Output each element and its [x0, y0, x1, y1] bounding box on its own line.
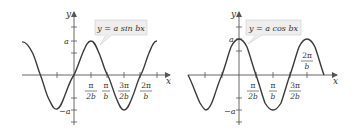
svg-text:π: π	[271, 81, 276, 90]
svg-text:b: b	[144, 92, 149, 101]
cosine-graph: y x a −a π 2b π b 3π 2b 2π b	[188, 9, 338, 125]
cosine-equation-callout: y = a cos bx	[246, 20, 301, 44]
sine-x-tick-labels: π 2b π b 3π 2b 2π b	[85, 81, 152, 101]
sine-x-label-pi-2b: π 2b	[85, 81, 97, 101]
sine-y-tick-a: a	[64, 37, 69, 46]
svg-text:2b: 2b	[247, 92, 258, 101]
svg-text:π: π	[89, 81, 94, 90]
svg-text:b: b	[305, 62, 310, 71]
sine-x-label-2pi-b: 2π b	[140, 81, 152, 101]
svg-text:2b: 2b	[118, 92, 129, 101]
sine-x-label-3pi-2b: 3π 2b	[118, 81, 130, 101]
sine-equation-callout: y = a sin bx	[95, 20, 147, 45]
svg-text:π: π	[104, 81, 109, 90]
sine-equation-label: y = a sin bx	[96, 24, 145, 33]
svg-text:b: b	[271, 92, 276, 101]
svg-text:b: b	[104, 92, 109, 101]
svg-text:3π: 3π	[290, 81, 300, 90]
cosine-x-label-pi-b: π b	[269, 81, 277, 101]
cosine-y-axis-label: y	[230, 9, 237, 19]
svg-text:2π: 2π	[141, 81, 151, 90]
cosine-y-tick-neg-a: −a	[224, 107, 236, 116]
svg-text:2b: 2b	[289, 92, 300, 101]
svg-text:π: π	[251, 81, 256, 90]
cosine-x-axis-label: x	[333, 76, 338, 86]
sine-y-tick-neg-a: −a	[59, 107, 71, 116]
sine-x-label-pi-b: π b	[102, 81, 110, 101]
svg-text:2π: 2π	[302, 51, 312, 60]
sine-graph: y x a −a π 2b π b 3π 2b 2π b	[22, 9, 171, 125]
svg-text:3π: 3π	[119, 81, 129, 90]
cosine-x-label-3pi-2b: 3π 2b	[289, 81, 301, 101]
sine-y-axis-label: y	[65, 9, 72, 19]
cosine-x-label-2pi-b: 2π b	[301, 51, 313, 71]
trig-graphs-diagram: y x a −a π 2b π b 3π 2b 2π b	[0, 0, 357, 137]
svg-text:2b: 2b	[85, 92, 96, 101]
sine-x-axis-label: x	[166, 76, 171, 86]
cosine-equation-label: y = a cos bx	[248, 24, 299, 33]
cosine-x-label-pi-2b: π 2b	[247, 81, 259, 101]
cosine-y-tick-a: a	[229, 35, 234, 44]
